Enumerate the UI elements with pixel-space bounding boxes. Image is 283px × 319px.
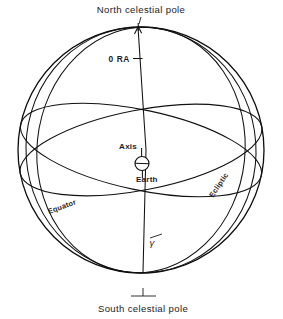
- earth-group: [135, 148, 149, 178]
- diagram-canvas: North celestial pole South celestial pol…: [0, 0, 283, 319]
- ecliptic: [12, 85, 269, 214]
- earth-equator-line: [135, 163, 149, 164]
- celestial-sphere-diagram: North celestial pole South celestial pol…: [0, 0, 283, 319]
- equator-label: Equator: [47, 197, 78, 215]
- meridian-arc-right: [25, 17, 258, 283]
- south-celestial-pole-label: South celestial pole: [98, 303, 188, 314]
- ecliptic-ellipse: [12, 85, 269, 214]
- earth-label: Earth: [136, 175, 158, 184]
- zero-ra-label: 0 RA: [109, 54, 130, 64]
- north-celestial-pole-label: North celestial pole: [97, 4, 186, 15]
- meridian-arc-right-ellipse: [25, 17, 258, 283]
- axis-label: Axis: [119, 142, 137, 151]
- north-pole-leader-line: [139, 17, 141, 24]
- vernal-equinox-label: γ: [149, 237, 155, 248]
- celestial-sphere-outline: [18, 27, 264, 273]
